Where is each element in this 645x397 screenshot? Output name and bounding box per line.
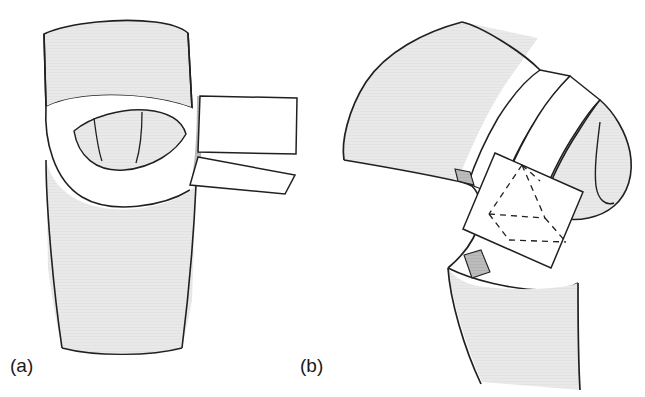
retractor-flap-upper[interactable] — [198, 96, 297, 154]
panel-b-caption: (b) — [300, 355, 323, 376]
two-panel-anatomical-figure: (a) — [0, 0, 645, 397]
figure-container: (a) — [0, 0, 645, 397]
femur-shaft-upper — [44, 21, 192, 109]
panel-a-caption: (a) — [10, 355, 33, 376]
